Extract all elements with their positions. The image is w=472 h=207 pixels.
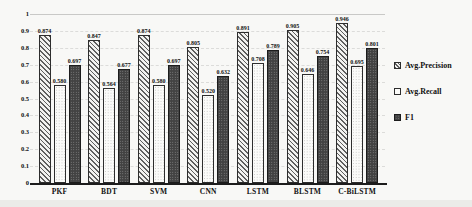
bar-value-label: 0.905 [286,23,300,29]
bar-value-label: 0.874 [137,28,151,34]
y-axis-tick-label: 0.9 [5,28,29,35]
bar-value-label: 0.695 [350,59,364,65]
bar-wrap: 0.754 [317,56,329,183]
legend-swatch-recall-icon [394,88,401,95]
bar-wrap: 0.564 [103,88,115,183]
y-axis-tick-label: 0.1 [5,163,29,170]
x-axis-category-label: BDT [84,187,134,196]
y-axis-tick-label: 0 [5,180,29,187]
bar-group-lstm: 0.8910.7080.789 [237,32,279,183]
bar-value-label: 0.754 [316,49,330,55]
y-axis-tick-label: 0.2 [5,146,29,153]
bar-avg-recall-cnn [202,95,214,183]
bar-value-label: 0.632 [217,69,231,75]
y-axis-tick-label: 0.4 [5,112,29,119]
bar-avg-precision-cnn [187,47,199,183]
gridline [30,31,385,32]
legend-label: F1 [405,114,414,122]
x-axis-category-label: BLSTM [283,187,333,196]
y-axis-tick-label: 0.8 [5,45,29,52]
bar-value-label: 0.580 [53,78,67,84]
bar-value-label: 0.946 [335,16,349,22]
bar-avg-recall-blstm [302,74,314,183]
bar-avg-recall-c-bilstm [351,66,363,183]
legend-item-avg-precision: Avg.Precision [394,61,452,70]
y-axis-tick-label: 0.5 [5,95,29,102]
bar-avg-precision-lstm [237,32,249,183]
bar-wrap: 0.580 [153,85,165,183]
bar-f1-lstm [267,50,279,183]
bar-value-label: 0.789 [266,43,280,49]
bar-wrap: 0.697 [168,65,180,183]
bar-value-label: 0.805 [187,40,201,46]
legend-swatch-precision-icon [394,62,401,69]
scan-texture-strip [0,200,472,207]
bar-wrap: 0.805 [187,47,199,183]
bar-value-label: 0.646 [301,67,315,73]
x-axis-category-label: LSTM [233,187,283,196]
bar-wrap: 0.946 [336,23,348,183]
bar-value-label: 0.677 [117,62,131,68]
bar-value-label: 0.708 [251,56,265,62]
bar-value-label: 0.874 [38,28,52,34]
bar-wrap: 0.891 [237,32,249,183]
legend-item-f1: F1 [394,113,452,122]
bar-avg-recall-lstm [252,63,264,183]
bar-wrap: 0.874 [138,35,150,183]
bar-f1-pkf [69,65,81,183]
bar-group-pkf: 0.8740.5800.697 [39,35,81,183]
bar-wrap: 0.677 [118,69,130,183]
x-axis-category-label: SVM [134,187,184,196]
legend-label: Avg.Recall [405,88,442,96]
bar-group-svm: 0.8740.5800.697 [138,35,180,183]
bar-value-label: 0.580 [152,78,166,84]
bar-f1-blstm [317,56,329,183]
bar-wrap: 0.695 [351,66,363,183]
x-axis-category-label: PKF [35,187,85,196]
y-axis-tick-label: 0.6 [5,78,29,85]
legend-swatch-f1-icon [394,114,401,121]
bar-wrap: 0.847 [88,40,100,183]
bar-chart-figure: 00.10.20.30.40.50.60.70.80.91 0.8740.580… [0,0,472,207]
bar-wrap: 0.801 [366,48,378,183]
bar-wrap: 0.789 [267,50,279,183]
bar-group-cnn: 0.8050.5200.632 [187,47,229,183]
bar-avg-recall-svm [153,85,165,183]
bar-wrap: 0.580 [54,85,66,183]
y-axis-tick-label: 0.7 [5,61,29,68]
legend-label: Avg.Precision [405,62,452,70]
bar-avg-precision-svm [138,35,150,183]
bar-wrap: 0.708 [252,63,264,183]
bar-group-bdt: 0.8470.5640.677 [88,40,130,183]
x-axis-category-label: CNN [183,187,233,196]
bar-wrap: 0.646 [302,74,314,183]
bar-avg-recall-bdt [103,88,115,183]
bar-wrap: 0.697 [69,65,81,183]
y-axis-tick-label: 1 [5,11,29,18]
bar-avg-precision-bdt [88,40,100,183]
y-axis-tick-label: 0.3 [5,129,29,136]
bar-value-label: 0.847 [87,33,101,39]
bar-f1-cnn [217,76,229,183]
chart-legend: Avg.PrecisionAvg.RecallF1 [394,61,452,139]
bar-value-label: 0.697 [167,58,181,64]
bar-f1-svm [168,65,180,183]
legend-item-avg-recall: Avg.Recall [394,87,452,96]
bar-avg-precision-c-bilstm [336,23,348,183]
x-axis-line [30,183,387,185]
bar-wrap: 0.632 [217,76,229,183]
bar-value-label: 0.564 [102,81,116,87]
bar-wrap: 0.905 [287,30,299,183]
bar-value-label: 0.801 [365,41,379,47]
bar-wrap: 0.874 [39,35,51,183]
bar-avg-recall-pkf [54,85,66,183]
bar-f1-bdt [118,69,130,183]
x-axis-category-label: C-BiLSTM [332,187,382,196]
bar-f1-c-bilstm [366,48,378,183]
gridline [30,14,385,15]
bar-wrap: 0.520 [202,95,214,183]
bar-value-label: 0.697 [68,58,82,64]
bar-group-blstm: 0.9050.6460.754 [287,30,329,183]
bar-value-label: 0.891 [236,25,250,31]
bar-value-label: 0.520 [202,88,216,94]
